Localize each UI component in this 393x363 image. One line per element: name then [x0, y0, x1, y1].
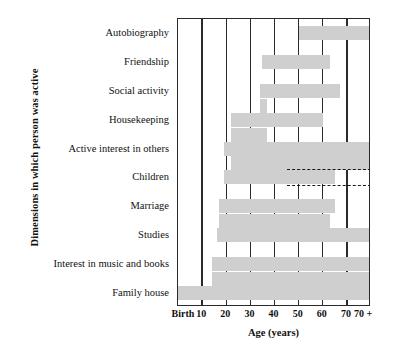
category-label-autobiography: Autobiography — [19, 27, 169, 38]
category-label-column: AutobiographyFriendshipSocial activityHo… — [30, 18, 173, 306]
x-tick-label-10: 10 — [196, 308, 206, 319]
bar-segment — [219, 214, 330, 228]
gridline-10 — [201, 19, 202, 305]
bar-segment — [231, 128, 267, 142]
plot-area — [177, 18, 370, 306]
bar-segment — [219, 199, 335, 213]
x-tick-label-50: 50 — [293, 308, 303, 319]
category-label-active-interest-in-others: Active interest in others — [19, 142, 169, 153]
x-axis-title: Age (years) — [177, 327, 370, 338]
category-label-friendship: Friendship — [19, 56, 169, 67]
bar-segment — [299, 26, 370, 40]
x-tick-label-Birth: Birth — [172, 308, 195, 319]
bar-segment — [231, 113, 323, 127]
category-label-social-activity: Social activity — [19, 85, 169, 96]
bar-segment — [260, 99, 267, 113]
bar-segment — [262, 55, 330, 69]
bar-segment — [224, 170, 335, 184]
x-tick-label-60: 60 — [317, 308, 327, 319]
bar-segment — [178, 286, 370, 300]
category-label-marriage: Marriage — [19, 200, 169, 211]
bar-segment — [212, 272, 370, 286]
category-label-housekeeping: Housekeeping — [19, 113, 169, 124]
x-axis-tick-row: Birth1020304050607070 + — [177, 308, 370, 322]
bar-segment — [224, 142, 370, 156]
x-tick-label-40: 40 — [269, 308, 279, 319]
x-tick-label-20: 20 — [220, 308, 230, 319]
bar-segment — [212, 257, 370, 271]
category-label-interest-in-music-and-books: Interest in music and books — [19, 257, 169, 268]
x-tick-label-70: 70 — [341, 308, 351, 319]
bar-segment — [231, 156, 370, 170]
dashed-reference-line — [287, 169, 370, 170]
category-label-family-house: Family house — [19, 286, 169, 297]
bar-segment — [217, 228, 370, 242]
x-tick-label-30: 30 — [244, 308, 254, 319]
bar-segment — [260, 84, 340, 98]
x-tick-label-70: 70 + — [354, 308, 372, 319]
category-label-children: Children — [19, 171, 169, 182]
category-label-studies: Studies — [19, 229, 169, 240]
dashed-reference-line — [287, 185, 370, 186]
chart-root: Dimensions in which person was active Au… — [0, 0, 393, 363]
